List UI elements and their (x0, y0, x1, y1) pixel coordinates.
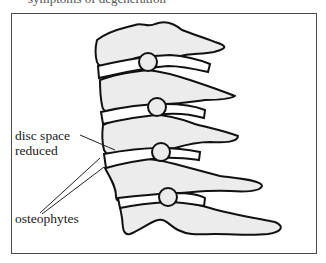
leader-osteophyte-1 (40, 158, 100, 213)
label-disc-space-reduced: disc space reduced (15, 128, 70, 158)
joint-2 (148, 98, 166, 116)
label-disc-space-line1: disc space (15, 128, 70, 143)
joint-1 (139, 53, 157, 71)
joint-4 (159, 188, 177, 206)
label-disc-space-line2: reduced (15, 143, 70, 158)
joint-3 (152, 143, 170, 161)
leader-osteophyte-2 (42, 167, 104, 214)
label-osteophytes: osteophytes (15, 211, 79, 226)
